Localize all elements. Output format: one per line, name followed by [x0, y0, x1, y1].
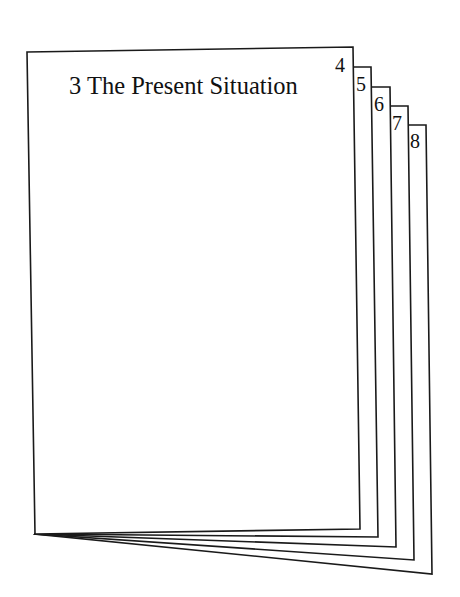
front-page-outline: [27, 47, 360, 534]
chapter-title: 3 The Present Situation: [69, 74, 298, 99]
page-number-6: 6: [374, 94, 384, 114]
page-number-5: 5: [356, 74, 366, 94]
page-number-8: 8: [410, 131, 420, 151]
page-number-7: 7: [392, 113, 402, 133]
page-number-4: 4: [335, 55, 345, 75]
